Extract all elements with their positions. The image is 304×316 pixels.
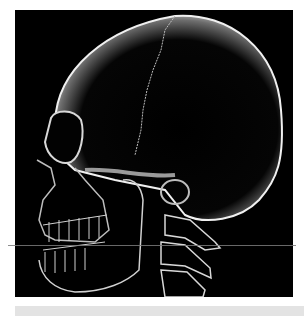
mandible <box>39 180 143 292</box>
cervical-spine <box>161 215 220 297</box>
cranium <box>53 16 282 220</box>
teeth <box>43 215 107 273</box>
bottom-gray-bar <box>15 306 304 316</box>
horizontal-guide-line <box>8 245 296 246</box>
eye-orbit <box>45 112 83 163</box>
skull-xray-image: Skull X-ray side view <box>15 10 293 297</box>
skull-illustration <box>15 10 293 297</box>
